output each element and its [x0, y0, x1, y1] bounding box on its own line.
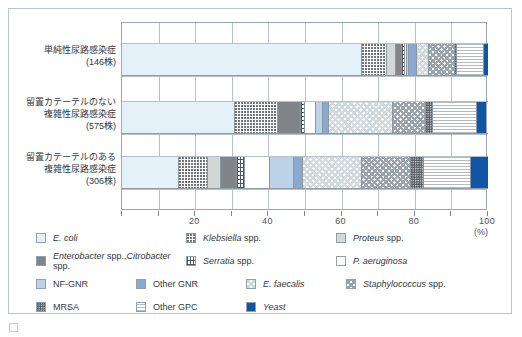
bar-segment-klebsiella — [362, 44, 388, 75]
stacked-bar — [122, 43, 488, 76]
legend-swatch-staph-icon — [346, 279, 356, 289]
bar-segment-yeast — [484, 44, 488, 75]
legend-swatch-paeruginosa-icon — [336, 256, 346, 266]
figure-root: 単純性尿路感染症 (146株) 留置カテーテルのない 複雑性尿路感染症 (575… — [0, 0, 522, 337]
legend-row: MRSAOther GPCYeast — [36, 295, 506, 318]
x-axis-tick-label: 60 — [326, 216, 356, 226]
legend-item-proteus[interactable]: Proteus spp. — [336, 233, 486, 243]
legend-swatch-ecoli-icon — [36, 233, 46, 243]
legend-swatch-othergpc-icon — [136, 302, 146, 312]
bar-segment-enterobacter — [221, 157, 237, 188]
legend-label-othergpc: Other GPC — [153, 302, 198, 312]
bar-segment-mrsa — [411, 157, 424, 188]
bar-segment-othergnr — [294, 157, 303, 188]
legend-item-serratia[interactable]: Serratia spp. — [186, 256, 336, 266]
bar-segment-yeast — [477, 102, 486, 133]
bar-segment-klebsiella — [235, 102, 277, 133]
x-axis-tick — [377, 211, 378, 216]
x-axis-tick — [450, 211, 451, 216]
legend-label-enterobacter: Enterobacter spp.,Citrobacter spp. — [53, 251, 186, 271]
category-label-simple-uti: 単純性尿路感染症 (146株) — [4, 44, 116, 68]
bar-segment-paeruginosa — [245, 157, 271, 188]
legend: E. coliKlebsiella spp.Proteus spp.Entero… — [36, 226, 506, 318]
legend-swatch-serratia-icon — [186, 256, 196, 266]
stacked-bar — [122, 156, 488, 189]
bar-segment-nfgnr — [316, 102, 323, 133]
bar-segment-yeast — [471, 157, 487, 188]
bar-segment-enterobacter — [278, 102, 302, 133]
legend-swatch-nfgnr-icon — [36, 279, 46, 289]
legend-label-mrsa: MRSA — [53, 302, 79, 312]
x-axis-tick — [121, 211, 122, 216]
legend-swatch-klebsiella-icon — [186, 233, 196, 243]
x-axis-tick — [158, 211, 159, 216]
legend-item-mrsa[interactable]: MRSA — [36, 302, 136, 312]
bar-segment-othergpc — [457, 44, 484, 75]
legend-item-nfgnr[interactable]: NF-GNR — [36, 279, 136, 289]
legend-swatch-efaecalis-icon — [246, 279, 256, 289]
bar-segment-nfgnr — [270, 157, 294, 188]
legend-label-nfgnr: NF-GNR — [53, 279, 88, 289]
legend-item-ecoli[interactable]: E. coli — [36, 233, 186, 243]
bar-segment-efaecalis — [417, 44, 430, 75]
legend-item-enterobacter[interactable]: Enterobacter spp.,Citrobacter spp. — [36, 251, 186, 271]
category-label-complicated-with-catheter: 留置カテーテルのある 複雑性尿路感染症 (306株) — [4, 151, 116, 187]
caption-marker — [9, 323, 18, 332]
legend-label-othergnr: Other GNR — [153, 279, 198, 289]
bar-segment-othergnr — [409, 44, 416, 75]
bar-segment-ecoli — [122, 102, 235, 133]
bar-segment-proteus — [208, 157, 221, 188]
bar-segment-othergpc — [424, 157, 472, 188]
legend-row: E. coliKlebsiella spp.Proteus spp. — [36, 226, 506, 249]
legend-item-yeast[interactable]: Yeast — [246, 302, 346, 312]
legend-label-paeruginosa: P. aeruginosa — [353, 256, 407, 266]
gridline-horizontal — [122, 189, 486, 190]
gridline-horizontal — [122, 101, 486, 102]
plot-area — [121, 22, 487, 210]
legend-row: NF-GNROther GNRE. faecalisStaphylococcus… — [36, 272, 506, 295]
x-axis-tick — [304, 211, 305, 216]
legend-row: Enterobacter spp.,Citrobacter spp.Serrat… — [36, 249, 506, 272]
legend-swatch-mrsa-icon — [36, 302, 46, 312]
bar-segment-staph — [393, 102, 426, 133]
x-axis-tick-label: 100 — [472, 216, 502, 226]
legend-item-othergpc[interactable]: Other GPC — [136, 302, 246, 312]
bar-segment-paeruginosa — [305, 102, 316, 133]
x-axis-tick-label: 80 — [399, 216, 429, 226]
bar-segment-staph — [429, 44, 455, 75]
bar-segment-serratia — [237, 157, 244, 188]
x-axis-tick-label: 40 — [252, 216, 282, 226]
bar-segment-ecoli — [122, 157, 179, 188]
x-axis-tick-label: 20 — [179, 216, 209, 226]
legend-item-staph[interactable]: Staphylococcus spp. — [346, 279, 496, 289]
legend-swatch-othergnr-icon — [136, 279, 146, 289]
legend-swatch-proteus-icon — [336, 233, 346, 243]
bar-segment-efaecalis — [303, 157, 362, 188]
legend-item-othergnr[interactable]: Other GNR — [136, 279, 246, 289]
gridline-horizontal — [122, 76, 486, 77]
gridline-horizontal — [122, 134, 486, 135]
legend-label-serratia: Serratia spp. — [203, 256, 254, 266]
category-label-complicated-no-catheter: 留置カテーテルのない 複雑性尿路感染症 (575株) — [4, 96, 116, 132]
bar-segment-ecoli — [122, 44, 362, 75]
bar-segment-mrsa — [426, 102, 433, 133]
stacked-bar — [122, 101, 488, 134]
legend-item-paeruginosa[interactable]: P. aeruginosa — [336, 256, 486, 266]
legend-label-efaecalis: E. faecalis — [263, 279, 305, 289]
gridline-horizontal — [122, 43, 486, 44]
gridline-horizontal — [122, 156, 486, 157]
legend-label-klebsiella: Klebsiella spp. — [203, 233, 261, 243]
legend-label-staph: Staphylococcus spp. — [363, 279, 446, 289]
legend-item-efaecalis[interactable]: E. faecalis — [246, 279, 346, 289]
legend-label-proteus: Proteus spp. — [353, 233, 404, 243]
bar-segment-efaecalis — [329, 102, 393, 133]
bar-segment-klebsiella — [179, 157, 208, 188]
legend-swatch-yeast-icon — [246, 302, 256, 312]
x-axis-tick — [231, 211, 232, 216]
bar-segment-proteus — [387, 44, 396, 75]
legend-label-ecoli: E. coli — [53, 233, 78, 243]
bar-segment-staph — [362, 157, 411, 188]
legend-swatch-enterobacter-icon — [36, 256, 46, 266]
legend-item-klebsiella[interactable]: Klebsiella spp. — [186, 233, 336, 243]
bar-segment-othergpc — [433, 102, 477, 133]
